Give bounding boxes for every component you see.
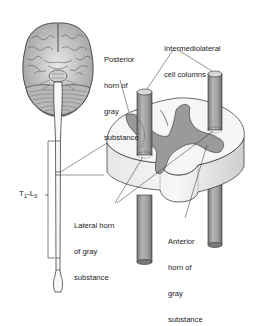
cord-to-section-lines [61,143,108,175]
lateral-horn-line-2: of gray [74,248,115,257]
lateral-horn-line-3: substance [74,274,115,283]
anterior-horn-line-1: Anterior [168,238,203,247]
posterior-horn-line-4: substance [104,134,139,143]
lateral-horn-label: Lateral horn of gray substance [74,205,115,300]
anterior-horn-line-4: substance [168,316,203,325]
anterior-horn-line-3: gray [168,290,203,299]
posterior-horn-line-1: Posterior [104,56,139,65]
segment-range-label: T1-L3 [19,189,37,199]
anterior-horn-label: Anterior horn of gray substance [168,221,203,326]
segment-l-sub: 3 [34,193,37,199]
intermediolateral-line-2: cell columns [164,71,221,80]
anterior-horn-line-2: horn of [168,264,203,273]
posterior-horn-line-3: gray [104,108,139,117]
posterior-horn-line-2: horn of [104,82,139,91]
spinal-cord [54,82,63,292]
intermediolateral-line-1: Intermediolateral [164,45,221,54]
intermediolateral-label: Intermediolateral cell columns [164,28,221,97]
posterior-horn-label: Posterior horn of gray substance [104,39,139,159]
segment-bracket [45,141,55,258]
lateral-horn-line-1: Lateral horn [74,222,115,231]
